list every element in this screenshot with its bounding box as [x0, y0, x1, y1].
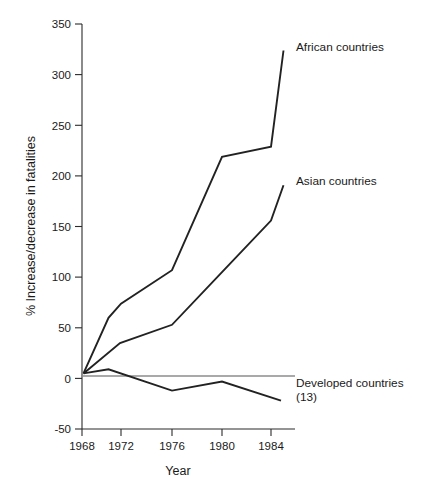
- y-axis-tick-labels: 350 300 250 200 150 100 50 0 -50: [52, 18, 71, 435]
- y-axis-title: % Increase/decrease in fatalities: [24, 136, 38, 316]
- x-axis-tick-labels: 1968 1972 1976 1980 1984: [69, 440, 284, 452]
- x-tick-label: 1980: [209, 440, 235, 452]
- x-tick-label: 1984: [258, 440, 284, 452]
- series-label-developed-countries-count: (13): [296, 390, 317, 404]
- y-tick-label: 250: [52, 120, 71, 132]
- y-axis-ticks: [75, 24, 82, 429]
- y-tick-label: 200: [52, 170, 71, 182]
- series-label-asian-countries: Asian countries: [296, 174, 377, 188]
- y-tick-label: 0: [65, 373, 71, 385]
- y-tick-label: 150: [52, 221, 71, 233]
- x-tick-label: 1976: [159, 440, 185, 452]
- y-tick-label: 300: [52, 69, 71, 81]
- y-tick-label: 350: [52, 18, 71, 30]
- series-label-african-countries: African countries: [296, 40, 384, 54]
- chart-container: 350 300 250 200 150 100 50 0 -50 1968 19…: [0, 0, 428, 489]
- line-chart: 350 300 250 200 150 100 50 0 -50 1968 19…: [0, 0, 428, 489]
- x-axis-title: Year: [165, 464, 190, 478]
- x-tick-label: 1972: [108, 440, 134, 452]
- x-tick-label: 1968: [69, 440, 95, 452]
- y-tick-label: 100: [52, 271, 71, 283]
- series-line-african-countries: [84, 51, 284, 374]
- series-line-asian-countries: [84, 185, 284, 373]
- x-axis-ticks: [82, 429, 271, 436]
- y-tick-label: -50: [54, 423, 71, 435]
- series-line-developed-countries: [84, 369, 282, 400]
- y-tick-label: 50: [58, 322, 71, 334]
- series-label-developed-countries: Developed countries: [296, 376, 404, 390]
